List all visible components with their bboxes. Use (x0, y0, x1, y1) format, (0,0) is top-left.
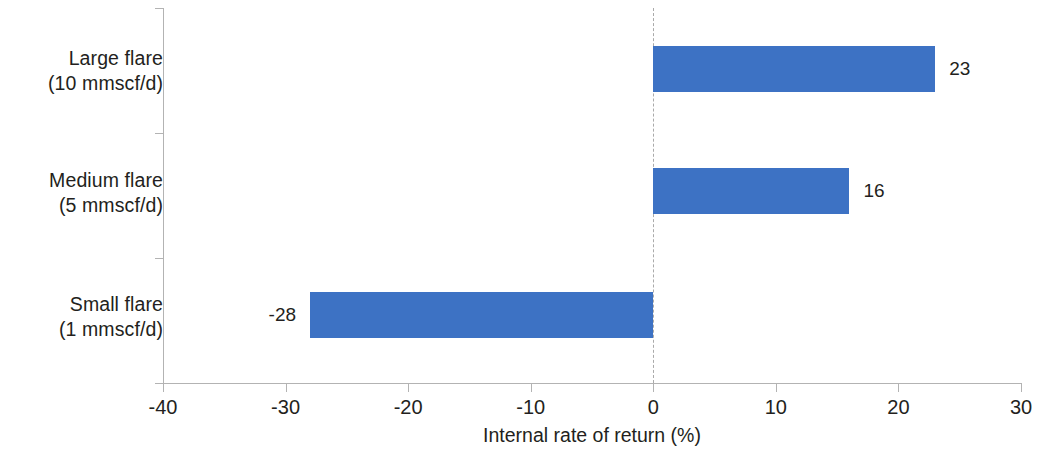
x-axis-tick-label: 0 (613, 396, 693, 419)
y-axis-tick (155, 258, 164, 259)
x-axis-tick-label: -40 (123, 396, 203, 419)
category-label-line2: (1 mmscf/d) (0, 317, 163, 342)
x-axis-tick (1021, 383, 1022, 392)
category-label-line2: (10 mmscf/d) (0, 71, 163, 96)
x-axis-tick (286, 383, 287, 392)
x-axis-tick (163, 383, 164, 392)
zero-reference-line (653, 8, 654, 383)
category-label-line1: Small flare (70, 293, 163, 315)
bar-value-label: 23 (949, 46, 970, 92)
bar (653, 168, 849, 214)
x-axis-tick (898, 383, 899, 392)
bar (653, 46, 935, 92)
x-axis-tick-label: 30 (981, 396, 1041, 419)
category-label-medium-flare: Medium flare (5 mmscf/d) (0, 168, 163, 218)
bar-value-label: 16 (863, 168, 884, 214)
x-axis-tick-label: 10 (736, 396, 816, 419)
x-axis-tick-label: -30 (246, 396, 326, 419)
x-axis-line (163, 383, 1021, 384)
y-axis-tick (155, 133, 164, 134)
x-axis-tick (531, 383, 532, 392)
x-axis-tick (408, 383, 409, 392)
x-axis-title: Internal rate of return (%) (163, 424, 1021, 447)
x-axis-tick-label: 20 (858, 396, 938, 419)
x-axis-tick-label: -10 (491, 396, 571, 419)
y-axis-tick (155, 8, 164, 9)
category-label-line1: Large flare (69, 47, 163, 69)
category-label-line2: (5 mmscf/d) (0, 193, 163, 218)
x-axis-tick (776, 383, 777, 392)
y-axis-tick (155, 383, 164, 384)
x-axis-tick-label: -20 (368, 396, 448, 419)
bar (310, 292, 653, 338)
bar-chart: Large flare (10 mmscf/d) Medium flare (5… (0, 0, 1041, 456)
y-axis-line (163, 8, 164, 383)
x-axis-tick (653, 383, 654, 392)
category-label-small-flare: Small flare (1 mmscf/d) (0, 292, 163, 342)
category-label-large-flare: Large flare (10 mmscf/d) (0, 46, 163, 96)
bar-value-label: -28 (236, 292, 296, 338)
category-label-line1: Medium flare (49, 169, 163, 191)
